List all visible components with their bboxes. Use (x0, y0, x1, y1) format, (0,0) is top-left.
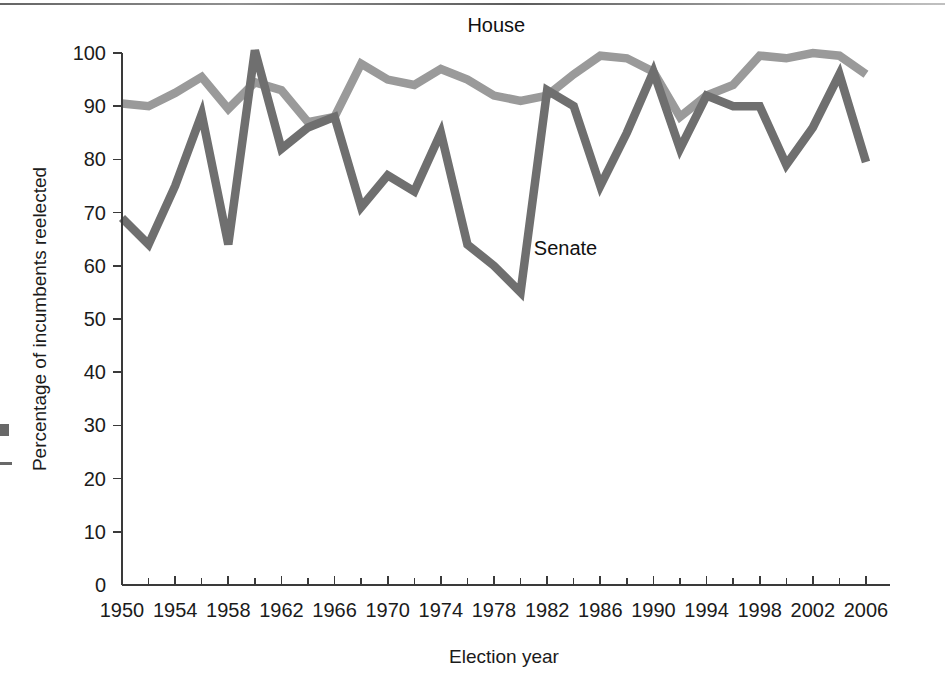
x-tick-label-1962: 1962 (259, 599, 304, 621)
y-tick-label-60: 60 (84, 255, 106, 277)
y-tick-label-50: 50 (84, 308, 106, 330)
x-tick-label-1982: 1982 (525, 599, 570, 621)
y-tick-label-0: 0 (95, 574, 106, 596)
x-tick-label-1958: 1958 (206, 599, 251, 621)
y-tick-label-100: 100 (73, 42, 106, 64)
series-label-senate: Senate (534, 237, 597, 259)
x-tick-label-1986: 1986 (578, 599, 623, 621)
x-tick-label-1954: 1954 (153, 599, 198, 621)
y-tick-label-30: 30 (84, 414, 106, 436)
x-tick-label-1998: 1998 (737, 599, 782, 621)
x-tick-label-1974: 1974 (419, 599, 464, 621)
y-axis-title: Percentage of incumbents reelected (29, 167, 50, 471)
y-tick-label-40: 40 (84, 361, 106, 383)
series-line-senate (122, 50, 866, 292)
x-tick-label-2002: 2002 (791, 599, 836, 621)
series-line-house (122, 53, 866, 122)
chart-page: 0102030405060708090100195019541958196219… (0, 0, 945, 692)
series-label-house: House (467, 14, 525, 36)
y-tick-label-10: 10 (84, 521, 106, 543)
series-layer (122, 50, 866, 292)
y-tick-label-70: 70 (84, 202, 106, 224)
x-tick-label-1994: 1994 (684, 599, 729, 621)
x-axis-title: Election year (449, 646, 560, 667)
x-tick-label-1970: 1970 (365, 599, 410, 621)
y-tick-label-20: 20 (84, 468, 106, 490)
x-tick-label-1950: 1950 (100, 599, 145, 621)
x-tick-label-1990: 1990 (631, 599, 676, 621)
x-tick-label-1966: 1966 (312, 599, 357, 621)
y-tick-label-80: 80 (84, 148, 106, 170)
x-tick-label-1978: 1978 (472, 599, 517, 621)
x-tick-label-2006: 2006 (844, 599, 889, 621)
incumbent-reelection-line-chart: 0102030405060708090100195019541958196219… (0, 0, 945, 692)
y-tick-label-90: 90 (84, 95, 106, 117)
